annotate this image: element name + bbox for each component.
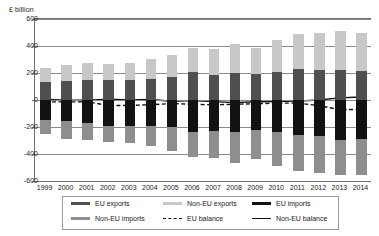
bar-segment-non-eu-imports [335, 140, 346, 175]
bar-segment-non-eu-exports [61, 65, 72, 81]
bar-segment-eu-exports [146, 79, 157, 100]
legend-label: EU imports [276, 200, 311, 207]
x-axis-tick-label: 2008 [226, 184, 242, 191]
bar-segment-non-eu-exports [230, 44, 241, 72]
bar-segment-eu-exports [82, 80, 93, 100]
bar-segment-non-eu-imports [230, 132, 241, 163]
legend-label: Non-EU exports [187, 200, 237, 207]
swatch-black-icon [252, 202, 271, 205]
chart-legend: EU exports Non-EU exports EU imports Non… [62, 196, 339, 230]
bar-segment-eu-exports [356, 71, 367, 100]
x-axis-tick-label: 2013 [332, 184, 348, 191]
bar-segment-eu-imports [40, 100, 51, 120]
bar-segment-eu-exports [230, 73, 241, 100]
bar-group [188, 19, 199, 180]
bar-segment-non-eu-exports [188, 48, 199, 72]
bar-segment-non-eu-exports [40, 68, 51, 82]
legend-label: EU balance [187, 215, 223, 222]
bar-segment-non-eu-exports [251, 48, 262, 74]
y-axis-tick-label: -400 [8, 150, 38, 157]
y-axis-tick-label: -600 [8, 177, 38, 184]
bar-segment-non-eu-imports [103, 126, 114, 142]
bar-segment-non-eu-exports [146, 59, 157, 78]
bar-segment-non-eu-exports [293, 34, 304, 68]
x-axis-tick-label: 2010 [268, 184, 284, 191]
bar-segment-non-eu-imports [167, 127, 178, 151]
bar-group [125, 19, 136, 180]
legend-item-non-eu-balance: Non-EU balance [252, 215, 327, 222]
legend-item-eu-imports: EU imports [252, 200, 311, 207]
bar-segment-non-eu-exports [103, 64, 114, 80]
bar-segment-non-eu-imports [209, 131, 220, 158]
bar-segment-non-eu-exports [356, 33, 367, 71]
bar-group [61, 19, 72, 180]
bar-segment-non-eu-exports [125, 63, 136, 80]
bar-segment-eu-imports [230, 100, 241, 132]
bar-segment-non-eu-exports [272, 40, 283, 72]
bar-group [314, 19, 325, 180]
plot-area [34, 18, 371, 180]
legend-label: Non-EU imports [95, 215, 145, 222]
x-axis-tick-label: 2006 [184, 184, 200, 191]
bar-segment-non-eu-imports [82, 123, 93, 141]
x-axis-tick-label: 2005 [163, 184, 179, 191]
bar-segment-non-eu-imports [61, 121, 72, 138]
swatch-light-gray-icon [163, 202, 182, 205]
legend-label: EU exports [95, 200, 130, 207]
bar-segment-non-eu-imports [272, 132, 283, 166]
y-axis-tick-label: 200 [8, 69, 38, 76]
legend-item-eu-exports: EU exports [71, 200, 130, 207]
bar-segment-eu-exports [188, 72, 199, 100]
legend-row-1: EU exports Non-EU exports EU imports [63, 200, 338, 214]
bar-segment-non-eu-imports [293, 135, 304, 171]
bar-segment-eu-exports [40, 82, 51, 100]
bar-segment-non-eu-imports [40, 120, 51, 134]
bar-group [272, 19, 283, 180]
y-axis-tick-label: -200 [8, 123, 38, 130]
y-axis-tick-label: 600 [8, 15, 38, 22]
legend-label: Non-EU balance [276, 215, 327, 222]
bar-segment-non-eu-exports [82, 63, 93, 80]
bar-segment-eu-imports [356, 100, 367, 139]
x-axis-tick-label: 2000 [58, 184, 74, 191]
bar-segment-eu-exports [335, 70, 346, 100]
legend-row-2: Non-EU imports EU balance Non-EU balance [63, 215, 338, 229]
bar-segment-eu-imports [251, 100, 262, 130]
x-axis-tick-label: 2004 [142, 184, 158, 191]
swatch-dark-gray-icon [71, 202, 90, 205]
bar-segment-eu-imports [103, 100, 114, 126]
x-axis-tick-label: 1999 [37, 184, 53, 191]
legend-item-non-eu-exports: Non-EU exports [163, 200, 237, 207]
y-axis-tick-label: 0 [8, 96, 38, 103]
swatch-mid-gray-icon [71, 217, 90, 220]
bar-segment-eu-imports [293, 100, 304, 135]
bar-segment-eu-imports [167, 100, 178, 127]
bar-segment-non-eu-imports [356, 139, 367, 174]
bar-group [82, 19, 93, 180]
bar-segment-eu-imports [61, 100, 72, 121]
bar-group [103, 19, 114, 180]
bar-segment-eu-imports [188, 100, 199, 132]
bar-segment-eu-imports [125, 100, 136, 126]
bar-segment-eu-exports [251, 74, 262, 100]
bar-segment-eu-exports [61, 81, 72, 100]
y-axis-tick-label: 400 [8, 42, 38, 49]
x-axis-tick-label: 2001 [79, 184, 95, 191]
bar-group [251, 19, 262, 180]
x-axis-tick-label: 2012 [311, 184, 327, 191]
bar-group [356, 19, 367, 180]
bar-group [167, 19, 178, 180]
bar-segment-eu-exports [272, 72, 283, 100]
bar-segment-eu-exports [314, 70, 325, 100]
bar-segment-eu-imports [209, 100, 220, 131]
x-axis-tick-label: 2003 [121, 184, 137, 191]
bar-segment-eu-imports [82, 100, 93, 123]
bar-segment-non-eu-imports [314, 136, 325, 173]
bar-segment-eu-exports [293, 69, 304, 100]
legend-item-non-eu-imports: Non-EU imports [71, 215, 145, 222]
solid-line-icon [252, 218, 271, 219]
x-axis-tick-label: 2009 [247, 184, 263, 191]
x-axis-tick-label: 2007 [205, 184, 221, 191]
bar-segment-non-eu-exports [167, 55, 178, 77]
x-axis-tick-label: 2011 [290, 184, 305, 191]
